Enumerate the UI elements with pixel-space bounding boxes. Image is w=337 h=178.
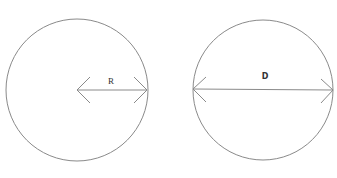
radius-diameter-diagram: R D bbox=[0, 0, 337, 178]
diameter-arrowhead-right-icon bbox=[321, 79, 333, 103]
radius-label: R bbox=[108, 76, 114, 86]
radius-figure: R bbox=[6, 19, 148, 161]
diameter-arrow-line bbox=[193, 89, 333, 90]
diameter-label: D bbox=[262, 72, 269, 81]
diameter-figure: D bbox=[193, 20, 333, 160]
